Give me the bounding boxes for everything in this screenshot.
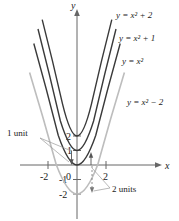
arrow-2-units-up — [89, 152, 93, 165]
x-tick-label-2: 2 — [103, 171, 108, 182]
y-axis — [74, 9, 80, 219]
parabola-shift-figure: y x -2 2 0 2 1 -1 -2 y = x² + 2 y — [0, 0, 179, 221]
annotation-2-units: 2 units — [112, 184, 137, 194]
x-axis-label: x — [164, 160, 170, 171]
curve-label-x2: y = x² — [121, 56, 144, 66]
y-tick-label-2: 2 — [66, 131, 71, 142]
y-axis-label: y — [70, 0, 76, 11]
figure-canvas: y x -2 2 0 2 1 -1 -2 y = x² + 2 y — [0, 0, 179, 221]
curve-label-x2-plus-2: y = x² + 2 — [115, 10, 153, 20]
curve-label-x2-plus-1: y = x² + 1 — [118, 33, 155, 43]
curve-label-x2-minus-2: y = x² − 2 — [126, 97, 164, 107]
x-tick-label-neg2: -2 — [40, 171, 48, 182]
y-tick-label-neg2: -2 — [59, 189, 67, 200]
annotation-1-unit: 1 unit — [7, 128, 28, 138]
